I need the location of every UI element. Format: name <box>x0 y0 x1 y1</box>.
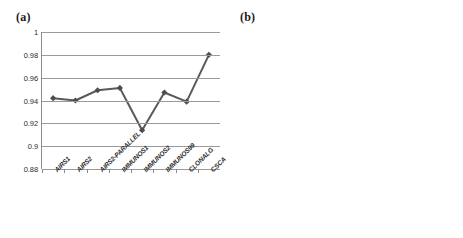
gridline <box>42 123 220 124</box>
x-axis-tick <box>87 169 88 173</box>
chart-panel-a: (a) 0.880.90.920.940.960.981AIRS1AIRS2AI… <box>0 0 232 238</box>
y-axis-tick-label: 0.9 <box>28 142 38 151</box>
plot-area-a: 0.880.90.920.940.960.981AIRS1AIRS2AIRS2-… <box>41 32 220 169</box>
x-axis-tick <box>131 169 132 173</box>
y-axis-tick-label: 0.98 <box>24 50 38 59</box>
gridline <box>42 55 220 56</box>
x-axis-tick <box>109 169 110 173</box>
data-point-marker <box>184 99 190 105</box>
data-point-marker <box>95 87 101 93</box>
y-axis-tick-label: 0.92 <box>24 119 38 128</box>
y-axis-tick-label: 1 <box>34 28 38 37</box>
x-axis-tick <box>153 169 154 173</box>
x-axis-tick <box>64 169 65 173</box>
x-axis-tick <box>176 169 177 173</box>
gridline <box>42 32 220 33</box>
figure-container: (a) 0.880.90.920.940.960.981AIRS1AIRS2AI… <box>0 0 463 238</box>
panel-label-a: (a) <box>16 10 31 25</box>
x-axis-tick <box>42 169 43 173</box>
gridline <box>42 101 220 102</box>
y-axis-tick-label: 0.96 <box>24 73 38 82</box>
y-axis-tick-label: 0.88 <box>24 165 38 174</box>
chart-panel-b: (b) 00.10.20.30.40.50.60.70.80.9AIRS1AIR… <box>232 0 463 238</box>
gridline <box>42 78 220 79</box>
data-series-line <box>53 55 209 130</box>
x-axis-tick <box>198 169 199 173</box>
panel-label-b: (b) <box>240 10 255 25</box>
y-axis-tick-label: 0.94 <box>24 96 38 105</box>
